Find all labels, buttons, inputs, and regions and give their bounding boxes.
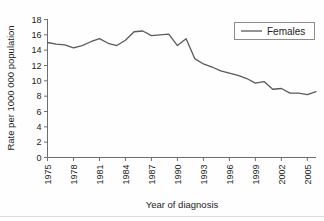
y-tick-label: 6: [36, 107, 41, 117]
x-tick-label: 1975: [43, 165, 53, 185]
x-tick-label: 1996: [225, 165, 235, 185]
x-tick-label: 1978: [69, 165, 79, 185]
y-tick-label: 4: [36, 122, 41, 132]
x-axis-title: Year of diagnosis: [146, 199, 219, 210]
x-tick-label: 1981: [95, 165, 105, 185]
y-tick-labels: 024681012141618: [31, 15, 41, 163]
chart-figure: 024681012141618 197519781981198419871990…: [0, 0, 324, 221]
x-tick-label: 1987: [147, 165, 157, 185]
y-tick-label: 8: [36, 91, 41, 101]
x-tick-label: 2005: [303, 165, 313, 185]
y-tick-marks: [44, 20, 48, 158]
y-tick-label: 14: [31, 45, 41, 55]
x-tick-label: 1984: [121, 165, 131, 185]
y-axis-title: Rate per 1000 000 population: [5, 25, 16, 150]
x-tick-label: 2002: [277, 165, 287, 185]
x-tick-label: 1999: [251, 165, 261, 185]
x-tick-label: 1993: [199, 165, 209, 185]
legend: Females: [235, 23, 315, 40]
data-series-group: [48, 31, 317, 95]
y-tick-label: 0: [36, 153, 41, 163]
x-tick-marks: [48, 158, 308, 162]
y-tick-label: 12: [31, 61, 41, 71]
legend-label-females: Females: [267, 26, 305, 37]
x-tick-labels: 1975197819811984198719901993199619992002…: [43, 165, 313, 185]
x-axis-group: 1975197819811984198719901993199619992002…: [43, 158, 316, 185]
y-tick-label: 16: [31, 30, 41, 40]
y-axis-group: 024681012141618: [31, 15, 47, 163]
footer-divider: [0, 216, 324, 217]
line-chart: 024681012141618 197519781981198419871990…: [0, 0, 324, 221]
y-tick-label: 10: [31, 76, 41, 86]
y-tick-label: 18: [31, 15, 41, 25]
x-tick-label: 1990: [173, 165, 183, 185]
y-tick-label: 2: [36, 137, 41, 147]
series-line-females: [48, 31, 317, 95]
